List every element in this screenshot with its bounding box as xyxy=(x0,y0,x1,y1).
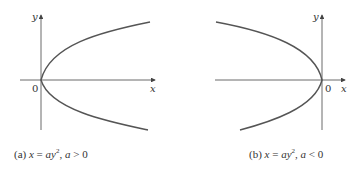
parabola-diagrams: y x 0 y x 0 xyxy=(0,0,363,170)
caption-a-lhs: x xyxy=(29,148,34,160)
caption-a-op: > xyxy=(73,148,79,160)
y-label-a: y xyxy=(31,11,38,22)
caption-b-exp: 2 xyxy=(292,147,296,155)
caption-b-rhs: ay xyxy=(281,148,291,160)
caption-a-val: 0 xyxy=(82,148,88,160)
caption-b-val: 0 xyxy=(318,148,324,160)
x-label-b: x xyxy=(341,83,347,94)
caption-b-prefix: (b) xyxy=(249,148,262,160)
caption-a-exp: 2 xyxy=(56,147,60,155)
parabola-a-curve xyxy=(41,22,150,130)
caption-a: (a) x = ay2, a > 0 xyxy=(14,147,88,160)
parabola-b-curve xyxy=(216,22,322,130)
caption-a-cvar: a xyxy=(65,148,71,160)
figure-a: y x 0 xyxy=(20,11,156,130)
caption-a-rhs: ay xyxy=(46,148,56,160)
x-label-a: x xyxy=(150,83,156,94)
y-label-b: y xyxy=(312,11,319,22)
caption-b-lhs: x xyxy=(265,148,270,160)
caption-a-prefix: (a) xyxy=(14,148,26,160)
caption-b-cvar: a xyxy=(301,148,307,160)
figure-b: y x 0 xyxy=(215,11,347,130)
origin-label-b: 0 xyxy=(325,83,331,94)
origin-label-a: 0 xyxy=(32,83,38,94)
caption-b-op: < xyxy=(309,148,315,160)
caption-b: (b) x = ay2, a < 0 xyxy=(249,147,323,160)
